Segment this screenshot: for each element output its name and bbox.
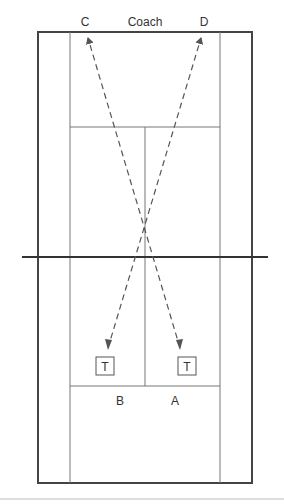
position-a-label: A xyxy=(171,394,179,408)
arrowhead-b-tip xyxy=(105,339,112,350)
target-right-label: T xyxy=(183,360,191,374)
arrow-a-to-c xyxy=(88,38,180,348)
tennis-court-diagram: T T C Coach D B A xyxy=(0,0,284,504)
position-b-label: B xyxy=(116,394,124,408)
position-c-label: C xyxy=(81,15,90,29)
arrowhead-a-tip xyxy=(176,339,183,350)
coach-label: Coach xyxy=(128,15,163,29)
target-left-label: T xyxy=(101,360,109,374)
arrow-b-to-d xyxy=(108,38,201,348)
position-d-label: D xyxy=(200,15,209,29)
